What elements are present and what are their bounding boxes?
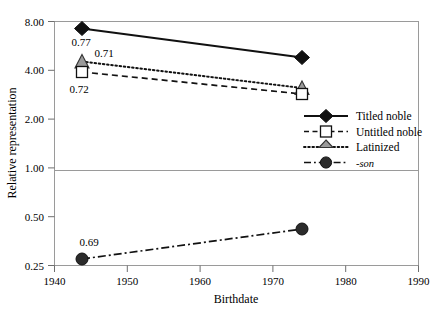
y-tick-label-050: 0.50 — [25, 211, 45, 223]
legend-label-son: -son — [356, 158, 374, 169]
legend-label-untitled-noble: Untitled noble — [356, 126, 422, 138]
y-axis-tick-labels: 8.00 4.00 2.00 1.00 0.50 0.25 — [25, 16, 45, 272]
marker-untitled-noble-1974 — [297, 89, 308, 100]
marker-son-1945 — [76, 253, 88, 265]
x-tick-label-1960: 1960 — [189, 275, 212, 287]
point-label-latinized: 0.71 — [94, 47, 113, 59]
x-axis-ticks — [55, 266, 419, 273]
legend-marker-filled-circle-icon — [320, 157, 331, 168]
x-tick-label-1970: 1970 — [262, 275, 285, 287]
y-tick-label-8: 8.00 — [25, 16, 45, 28]
point-label-untitled-noble: 0.72 — [69, 83, 88, 95]
legend-label-latinized: Latinized — [356, 141, 400, 153]
x-tick-label-1950: 1950 — [116, 275, 139, 287]
y-axis-title: Relative representation — [5, 88, 19, 199]
y-tick-label-4: 4.00 — [25, 64, 45, 76]
legend-marker-open-square-icon — [321, 126, 332, 137]
x-tick-label-1980: 1980 — [335, 275, 358, 287]
marker-untitled-noble-1945 — [77, 67, 88, 78]
chart-svg: 8.00 4.00 2.00 1.00 0.50 0.25 1940 1950 … — [0, 0, 438, 314]
x-tick-label-1990: 1990 — [408, 275, 431, 287]
point-label-son: 0.69 — [79, 236, 99, 248]
y-tick-label-2: 2.00 — [25, 113, 45, 125]
y-axis-ticks — [48, 22, 55, 266]
x-tick-label-1940: 1940 — [44, 275, 67, 287]
y-tick-label-1: 1.00 — [25, 162, 45, 174]
marker-son-1974 — [296, 223, 308, 235]
legend-label-titled-noble: Titled noble — [356, 110, 411, 122]
y-tick-label-025: 0.25 — [25, 260, 45, 272]
x-axis-title: Birthdate — [214, 292, 259, 306]
legend-entry-untitled-noble[interactable]: Untitled noble — [304, 126, 422, 138]
x-axis-tick-labels: 1940 1950 1960 1970 1980 1990 — [44, 275, 431, 287]
chart-figure: 8.00 4.00 2.00 1.00 0.50 0.25 1940 1950 … — [0, 0, 438, 314]
point-label-titled-noble: 0.77 — [71, 36, 91, 48]
